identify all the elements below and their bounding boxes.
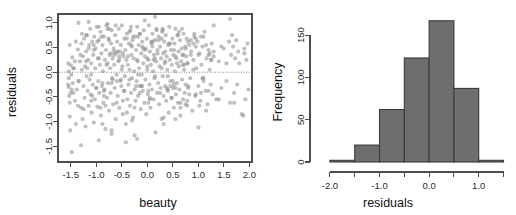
scatter-point — [124, 140, 128, 144]
x-tick-label: -1.5 — [63, 169, 79, 180]
scatter-point — [228, 17, 232, 21]
scatter-point — [209, 82, 213, 86]
y-tick-label: 0.0 — [43, 66, 54, 79]
scatter-point — [135, 58, 139, 62]
scatter-point — [243, 97, 247, 101]
scatter-point — [115, 101, 119, 105]
scatter-point — [170, 37, 174, 41]
scatter-point — [211, 92, 215, 96]
scatter-point — [208, 68, 212, 72]
scatter-point — [143, 78, 147, 82]
scatter-point — [219, 44, 223, 48]
scatter-point — [76, 47, 80, 51]
scatter-point — [134, 48, 138, 52]
scatter-point — [129, 43, 133, 47]
scatter-point — [176, 49, 180, 53]
scatter-point — [73, 99, 77, 103]
scatter-point — [103, 127, 107, 131]
scatter-point — [134, 84, 138, 88]
scatter-point — [116, 94, 120, 98]
scatter-point — [153, 74, 157, 78]
scatter-point — [78, 59, 82, 63]
scatter-point — [242, 46, 246, 50]
scatter-point — [80, 68, 84, 72]
scatter-point — [244, 58, 248, 62]
scatter-point — [178, 106, 182, 110]
histogram-panel: -2.0-1.00.01.0 050100150 residuals Frequ… — [258, 0, 516, 215]
scatter-point — [93, 97, 97, 101]
scatter-point — [99, 114, 103, 118]
scatter-point — [74, 40, 78, 44]
scatter-point — [168, 84, 172, 88]
scatter-point — [71, 66, 75, 70]
scatter-point — [135, 137, 139, 141]
scatter-point — [246, 87, 250, 91]
scatter-point — [197, 104, 201, 108]
scatter-point — [107, 38, 111, 42]
scatter-point — [85, 66, 89, 70]
scatter-point — [209, 58, 213, 62]
scatter-point — [99, 35, 103, 39]
scatter-point — [92, 35, 96, 39]
scatter-point — [177, 30, 181, 34]
x-tick-label: -1.0 — [371, 180, 387, 191]
scatter-point — [68, 101, 72, 105]
scatter-point — [170, 63, 174, 67]
scatter-point — [69, 73, 73, 77]
scatter-point — [150, 32, 154, 36]
y-tick-label: 50 — [295, 114, 306, 125]
scatter-point — [182, 63, 186, 67]
scatter-point — [178, 38, 182, 42]
scatter-point — [66, 82, 70, 86]
scatter-point — [115, 73, 119, 77]
scatter-point — [149, 63, 153, 67]
scatter-point — [135, 79, 139, 83]
scatter-point — [181, 97, 185, 101]
scatter-point — [112, 63, 116, 67]
scatter-point — [113, 33, 117, 37]
scatter-point — [162, 122, 166, 126]
scatter-point — [146, 89, 150, 93]
scatter-point — [121, 51, 125, 55]
scatter-point — [91, 82, 95, 86]
scatter-point — [170, 96, 174, 100]
scatter-point — [234, 38, 238, 42]
scatter-point — [150, 87, 154, 91]
scatter-point — [227, 40, 231, 44]
scatter-point — [70, 87, 74, 91]
scatter-point — [180, 27, 184, 31]
scatter-point — [137, 43, 141, 47]
scatter-point — [187, 92, 191, 96]
scatter-point — [121, 112, 125, 116]
scatter-point — [204, 109, 208, 113]
scatter-point — [173, 117, 177, 121]
x-tick-label: 0.5 — [166, 169, 179, 180]
scatter-point — [167, 42, 171, 46]
scatter-point — [162, 116, 166, 120]
scatter-point — [138, 91, 142, 95]
scatter-point — [71, 81, 75, 85]
scatter-point — [98, 30, 102, 34]
scatter-point — [160, 66, 164, 70]
scatter-point — [212, 23, 216, 27]
scatter-point — [177, 87, 181, 91]
scatter-point — [143, 18, 147, 22]
scatter-point — [150, 44, 154, 48]
scatter-point — [189, 53, 193, 57]
scatter-point — [99, 51, 103, 55]
scatter-point — [191, 68, 195, 72]
scatter-point — [114, 117, 118, 121]
scatter-point — [153, 130, 157, 134]
scatter-point — [155, 51, 159, 55]
scatter-point — [108, 51, 112, 55]
scatter-point — [217, 59, 221, 63]
scatter-point — [172, 48, 176, 52]
scatter-point — [98, 63, 102, 67]
scatter-point — [156, 38, 160, 42]
scatter-point — [82, 96, 86, 100]
scatter-point — [106, 81, 110, 85]
scatter-point — [186, 84, 190, 88]
scatter-point — [119, 43, 123, 47]
scatter-point — [91, 53, 95, 57]
histogram-bar — [380, 110, 405, 162]
